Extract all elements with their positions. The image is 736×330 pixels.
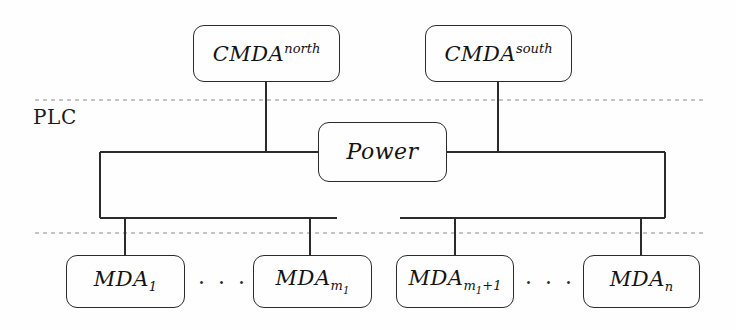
- node-label-mda-1: MDA1: [94, 269, 157, 293]
- node-mda-m1-plus-1[interactable]: MDAm1+1: [396, 255, 514, 308]
- node-mda-n[interactable]: MDAn: [583, 255, 700, 308]
- ellipsis-right: · · ·: [523, 272, 577, 294]
- node-label-cmda-north: CMDAnorth: [213, 42, 321, 65]
- node-power[interactable]: Power: [318, 122, 447, 182]
- diagram-canvas: PLC CMDAnorthCMDAsouthPowerMDA1MDAm1MDAm…: [0, 0, 736, 330]
- node-label-power: Power: [346, 141, 418, 163]
- node-label-mda-n: MDAn: [610, 269, 673, 293]
- node-label-mda-m1: MDAm1: [276, 268, 350, 296]
- zone-label-plc: PLC: [33, 107, 77, 127]
- ellipsis-left: · · ·: [196, 272, 250, 294]
- node-label-mda-m1-plus-1: MDAm1+1: [409, 268, 502, 296]
- node-cmda-north[interactable]: CMDAnorth: [193, 25, 340, 82]
- node-mda-1[interactable]: MDA1: [66, 255, 185, 308]
- node-mda-m1[interactable]: MDAm1: [253, 255, 372, 308]
- node-cmda-south[interactable]: CMDAsouth: [425, 25, 572, 82]
- node-label-cmda-south: CMDAsouth: [444, 42, 552, 65]
